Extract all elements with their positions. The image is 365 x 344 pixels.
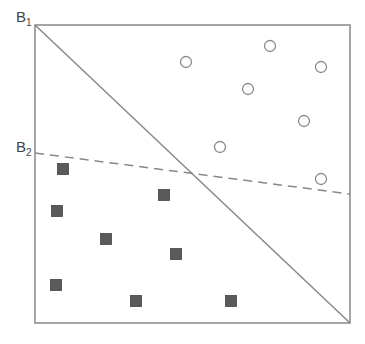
circle-point <box>215 142 226 153</box>
label-b1: B1 <box>16 8 32 28</box>
boundary-b2 <box>35 153 350 194</box>
circle-point <box>299 116 310 127</box>
circle-point <box>265 41 276 52</box>
circle-point <box>316 174 327 185</box>
decision-boundary-diagram <box>0 0 365 344</box>
square-point <box>58 164 69 175</box>
square-point <box>51 280 62 291</box>
label-b2: B2 <box>16 138 32 158</box>
square-point <box>52 206 63 217</box>
circle-point <box>316 62 327 73</box>
circle-point <box>181 57 192 68</box>
circle-point <box>243 84 254 95</box>
square-point <box>171 249 182 260</box>
square-point <box>226 296 237 307</box>
square-point <box>101 234 112 245</box>
square-point <box>131 296 142 307</box>
square-point <box>159 190 170 201</box>
